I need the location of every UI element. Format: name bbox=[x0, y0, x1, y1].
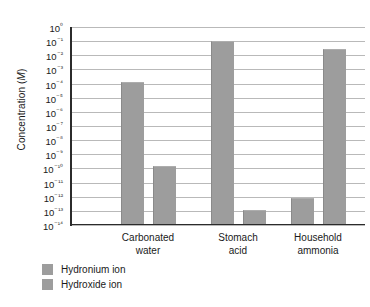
y-tick-label: 10⁰ bbox=[3, 22, 63, 34]
y-tick-label: 10⁻¹ bbox=[3, 36, 63, 48]
bar-hydronium bbox=[121, 82, 144, 224]
y-tick-label: 10⁻⁸ bbox=[3, 135, 63, 147]
bar-hydroxide bbox=[323, 49, 346, 224]
legend: Hydronium ion Hydroxide ion bbox=[42, 262, 125, 292]
legend-item: Hydroxide ion bbox=[42, 277, 125, 292]
legend-swatch-hydronium bbox=[42, 264, 53, 275]
bar-hydronium bbox=[211, 41, 234, 224]
y-tick-label: 10⁻⁵ bbox=[3, 93, 63, 105]
plot-area: 10⁰10⁻¹10⁻²10⁻³10⁻⁴10⁻⁵10⁻⁶10⁻⁷10⁻⁸10⁻⁹1… bbox=[70, 27, 365, 225]
y-tick-label: 10⁻² bbox=[3, 50, 63, 62]
y-tick-label: 10⁻⁷ bbox=[3, 121, 63, 133]
gridline bbox=[72, 225, 365, 226]
legend-item: Hydronium ion bbox=[42, 262, 125, 277]
x-category-label: Household ammonia bbox=[268, 232, 368, 257]
bar-hydroxide bbox=[153, 166, 176, 224]
x-category-label: Carbonated water bbox=[98, 232, 198, 257]
legend-label-hydronium: Hydronium ion bbox=[61, 264, 125, 275]
y-tick-label: 10⁻⁴ bbox=[3, 79, 63, 91]
legend-swatch-hydroxide bbox=[42, 279, 53, 290]
y-tick-label: 10⁻¹⁰ bbox=[3, 163, 63, 175]
bar-hydronium bbox=[291, 198, 314, 224]
gridline bbox=[72, 27, 365, 28]
y-tick-label: 10⁻¹² bbox=[3, 192, 63, 204]
y-tick-label: 10⁻¹⁴ bbox=[3, 220, 63, 232]
y-tick-label: 10⁻¹³ bbox=[3, 206, 63, 218]
y-tick-label: 10⁻³ bbox=[3, 64, 63, 76]
concentration-bar-chart: Concentration (M) 10⁰10⁻¹10⁻²10⁻³10⁻⁴10⁻… bbox=[0, 0, 370, 307]
legend-label-hydroxide: Hydroxide ion bbox=[61, 279, 122, 290]
y-tick-label: 10⁻⁶ bbox=[3, 107, 63, 119]
y-tick-label: 10⁻¹¹ bbox=[3, 178, 63, 190]
bar-hydroxide bbox=[243, 210, 266, 224]
y-tick-label: 10⁻⁹ bbox=[3, 149, 63, 161]
